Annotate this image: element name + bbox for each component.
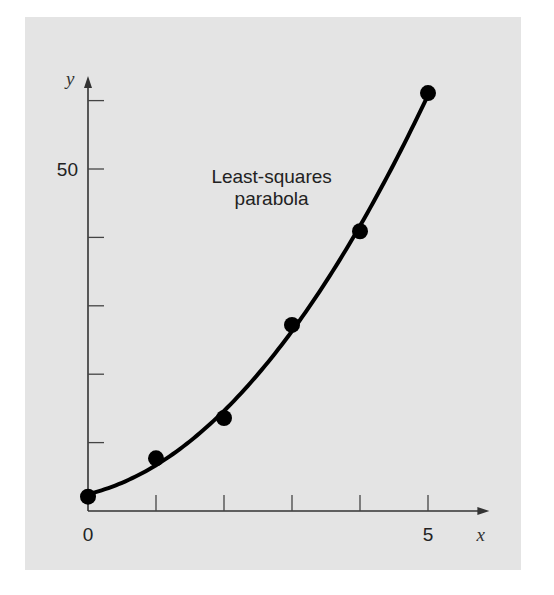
data-point [420,85,436,101]
x-tick-label: 5 [423,524,434,545]
data-point [352,223,368,239]
data-point [216,410,232,426]
x-tick-label: 0 [83,524,94,545]
data-point [284,317,300,333]
data-point [148,450,164,466]
x-axis-label: x [475,524,485,545]
y-axis-arrow [84,76,92,88]
y-tick-label: 50 [57,159,78,180]
least-squares-curve [88,95,428,494]
data-point [80,489,96,505]
annotation-line2: parabola [235,188,309,209]
chart: xy 0550 Least-squares parabola [0,0,554,595]
annotation-line1: Least-squares [211,166,331,187]
y-axis-label: y [64,68,75,89]
x-axis-arrow [477,507,489,515]
